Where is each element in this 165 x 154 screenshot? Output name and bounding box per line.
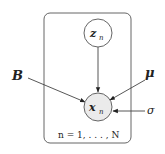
edge-B-to-x [28,78,85,102]
edge-mu-to-x [110,80,145,100]
svg-text:n: n [99,108,104,116]
node-z-n: z n [84,19,112,47]
param-sigma: σ [147,104,155,117]
svg-text:x: x [88,101,96,114]
graphical-model-diagram: n = 1, . . . , N z n x n B μ σ [0,0,165,154]
node-x-n: x n [84,93,112,121]
plate-label: n = 1, . . . , N [58,130,119,140]
param-mu: μ [145,65,155,80]
svg-text:n: n [99,34,104,42]
param-B: B [11,68,23,83]
svg-text:z: z [89,27,97,40]
